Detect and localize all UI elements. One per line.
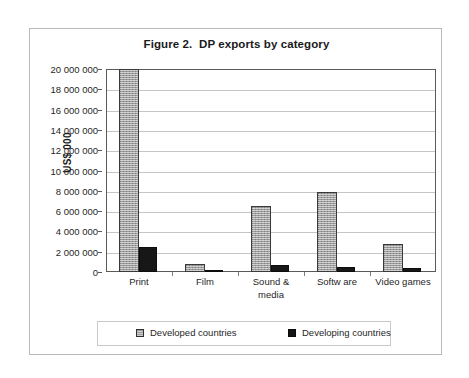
x-axis-label-film: Film — [172, 276, 238, 289]
x-axis-label-softw-are: Softw are — [304, 276, 370, 289]
y-axis-tick-label: 18 000 000 — [50, 84, 98, 95]
bar-group — [304, 69, 370, 272]
bar-developed-softw-are — [317, 192, 337, 272]
y-axis-tick-label: 14 000 000 — [50, 124, 98, 135]
legend-label: Developed countries — [150, 327, 237, 338]
y-axis-tick-mark — [98, 252, 102, 253]
bar-group — [238, 69, 304, 272]
x-axis-label-video-games: Video games — [370, 276, 436, 289]
y-axis-tick-label: 16 000 000 — [50, 104, 98, 115]
y-axis-tick-mark — [98, 150, 102, 151]
bars-layer — [106, 69, 436, 272]
bar-developed-video-games — [383, 244, 403, 272]
y-axis-tick-label: 20 000 000 — [50, 64, 98, 75]
bar-developed-print — [119, 69, 139, 272]
x-axis-label-line: Video games — [370, 276, 436, 289]
bar-developed-sound-&-media — [251, 206, 271, 272]
legend-entry-developed[interactable]: Developed countries — [136, 327, 237, 338]
x-axis-label-sound-&-media: Sound &media — [238, 276, 304, 301]
y-axis-tick-mark — [98, 231, 102, 232]
figure-frame: Figure 2. DP exports by category US$ 000… — [29, 28, 442, 355]
x-axis-label-line: media — [238, 289, 304, 302]
x-axis-label-line: Film — [172, 276, 238, 289]
y-axis-tick-mark — [98, 89, 102, 90]
chart-legend: Developed countriesDeveloping countries — [97, 321, 391, 346]
x-axis-label-line: Sound & — [238, 276, 304, 289]
bar-group — [370, 69, 436, 272]
y-axis-tick-mark — [98, 110, 102, 111]
bar-group — [106, 69, 172, 272]
legend-swatch-icon — [288, 329, 296, 337]
x-axis-category-labels: PrintFilmSound &mediaSoftw areVideo game… — [106, 276, 436, 312]
y-axis-tick-label: 10 000 000 — [50, 165, 98, 176]
y-axis-tick-mark — [98, 272, 102, 273]
x-axis-label-line: Print — [106, 276, 172, 289]
legend-swatch-icon — [136, 329, 144, 337]
legend-entry-developing[interactable]: Developing countries — [288, 327, 391, 338]
bar-group — [172, 69, 238, 272]
y-axis-tick-mark — [98, 191, 102, 192]
legend-label: Developing countries — [302, 327, 391, 338]
bar-developing-print — [139, 247, 157, 272]
y-axis-tick-label: 4 000 000 — [56, 226, 98, 237]
x-axis-label-print: Print — [106, 276, 172, 289]
y-axis-tick-mark — [98, 130, 102, 131]
y-axis-tick-label: 12 000 000 — [50, 145, 98, 156]
bar-developed-film — [185, 264, 205, 272]
y-axis-tick-mark — [98, 211, 102, 212]
y-axis-tick-mark — [98, 171, 102, 172]
chart-title: Figure 2. DP exports by category — [30, 38, 443, 50]
y-axis-tick-label: 2 000 000 — [56, 246, 98, 257]
y-axis-tick-mark — [98, 69, 102, 70]
y-axis-tick-label: 6 000 000 — [56, 206, 98, 217]
bar-developing-sound-&-media — [271, 265, 289, 272]
y-axis-tick-labels: 20 000 00018 000 00016 000 00014 000 000… — [30, 69, 102, 272]
x-axis-label-line: Softw are — [304, 276, 370, 289]
y-axis-tick-label: 8 000 000 — [56, 185, 98, 196]
